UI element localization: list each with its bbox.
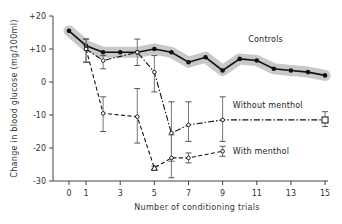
controls-point bbox=[67, 29, 72, 34]
y-tick-label: -20 bbox=[33, 144, 46, 153]
controls-point bbox=[118, 50, 123, 55]
x-tick-label: 7 bbox=[186, 189, 191, 198]
y-tick-label: +10 bbox=[29, 45, 46, 54]
without-menthol-point bbox=[135, 51, 139, 55]
controls-point bbox=[186, 60, 191, 65]
without-menthol-point bbox=[221, 118, 225, 122]
y-tick-label: 0 bbox=[41, 78, 46, 87]
controls-point bbox=[237, 57, 242, 62]
controls-point bbox=[323, 73, 328, 78]
controls-point bbox=[152, 47, 157, 52]
y-axis-label: Change in blood glucose (mg/100ml) bbox=[10, 19, 19, 177]
with-menthol-point bbox=[84, 47, 88, 51]
x-tick-label: 9 bbox=[220, 189, 225, 198]
x-tick-label: 5 bbox=[152, 189, 157, 198]
controls-point bbox=[254, 58, 259, 63]
without-menthol-point bbox=[101, 59, 105, 63]
controls-band-layer bbox=[69, 31, 325, 76]
controls-point bbox=[289, 68, 294, 73]
controls-point bbox=[169, 50, 174, 55]
x-tick-label: 13 bbox=[286, 189, 296, 198]
without-menthol-point bbox=[153, 70, 157, 74]
controls-point bbox=[203, 55, 208, 60]
y-ticks: +20+100-10-20-30 bbox=[29, 12, 53, 186]
x-axis-label: Number of conditioning trials bbox=[134, 203, 259, 212]
controls-point bbox=[101, 50, 106, 55]
annotation-without-menthol: Without menthol bbox=[233, 101, 303, 110]
controls-point bbox=[306, 70, 311, 75]
chart: +20+100-10-20-30 013579111315 Number of … bbox=[0, 0, 342, 224]
with-menthol-point bbox=[187, 156, 191, 160]
with-menthol-point bbox=[135, 115, 139, 119]
with-menthol-point bbox=[221, 150, 225, 154]
x-ticks: 013579111315 bbox=[66, 181, 330, 198]
with-menthol-point bbox=[101, 112, 105, 116]
y-tick-label: -30 bbox=[33, 177, 46, 186]
x-tick-label: 1 bbox=[84, 189, 89, 198]
y-tick-label: -10 bbox=[33, 111, 46, 120]
controls-point bbox=[272, 67, 277, 72]
controls-point bbox=[220, 68, 225, 73]
annotation-controls: Controls bbox=[248, 35, 283, 44]
controls-band bbox=[69, 31, 325, 76]
y-tick-label: +20 bbox=[29, 12, 46, 21]
x-tick-label: 15 bbox=[320, 189, 330, 198]
x-tick-label: 11 bbox=[252, 189, 262, 198]
without-menthol-point bbox=[187, 123, 191, 127]
x-tick-label: 0 bbox=[66, 189, 71, 198]
annotation-with-menthol: With menthol bbox=[233, 147, 289, 156]
x-tick-label: 3 bbox=[118, 189, 123, 198]
without-menthol-point bbox=[322, 117, 328, 123]
with-menthol-point bbox=[170, 156, 174, 160]
